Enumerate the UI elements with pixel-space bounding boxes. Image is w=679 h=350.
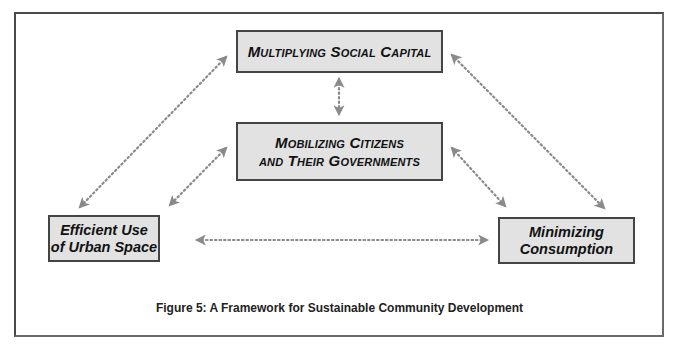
node-label: Multiplying Social Capital <box>248 43 432 60</box>
node-efficient-use-of-urban-space: Efficient Use of Urban Space <box>48 215 160 262</box>
node-label-line-1: Efficient Use <box>60 222 148 239</box>
figure-caption: Figure 5: A Framework for Sustainable Co… <box>0 301 679 315</box>
node-label-line-1: Minimizing <box>529 224 604 241</box>
arrow-mobilizing-to-consumption <box>452 148 505 206</box>
node-label-line-2: Consumption <box>520 241 613 258</box>
arrow-social-to-consumption <box>452 55 604 208</box>
node-label-line-2: of Urban Space <box>51 239 157 256</box>
node-label-line-1: Mobilizing Citizens <box>275 134 404 151</box>
node-label-line-2: and Their Governments <box>259 152 420 169</box>
arrow-social-to-urban <box>80 57 226 207</box>
node-mobilizing-citizens: Mobilizing Citizens and Their Government… <box>236 122 443 181</box>
node-multiplying-social-capital: Multiplying Social Capital <box>236 30 443 73</box>
node-minimizing-consumption: Minimizing Consumption <box>498 217 635 264</box>
arrow-mobilizing-to-urban <box>170 148 226 205</box>
